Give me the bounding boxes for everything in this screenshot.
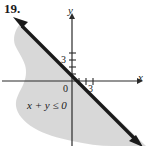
y-axis-label: y xyxy=(68,5,73,16)
inequality-label: x + y ≤ 0 xyxy=(27,100,67,111)
problem-number: 19. xyxy=(4,2,20,15)
x-axis-label: x xyxy=(138,72,143,83)
y-axis-tick-label-3: 3 xyxy=(61,55,66,65)
inequality-graph-figure: 19. y x 3 0 3 x + y ≤ 0 xyxy=(0,0,146,146)
graph-canvas xyxy=(0,0,146,146)
x-axis-tick-label-3: 3 xyxy=(88,84,93,94)
origin-label: 0 xyxy=(63,84,68,94)
